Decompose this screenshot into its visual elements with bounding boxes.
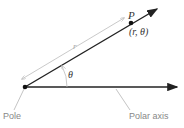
pole-point [23, 85, 28, 90]
angle-arc [62, 66, 67, 87]
angle-label: θ [68, 69, 73, 80]
polar-diagram [0, 0, 184, 128]
pole-leader [14, 89, 24, 110]
pole-label: Pole [3, 111, 21, 121]
polar-axis-label: Polar axis [129, 111, 169, 121]
radius-label: r [73, 41, 77, 51]
axis-leader [116, 89, 130, 110]
point-p-label: P [128, 9, 135, 21]
point-p [129, 21, 134, 26]
coords-label: (r, θ) [129, 26, 148, 37]
ray-line [25, 9, 157, 87]
